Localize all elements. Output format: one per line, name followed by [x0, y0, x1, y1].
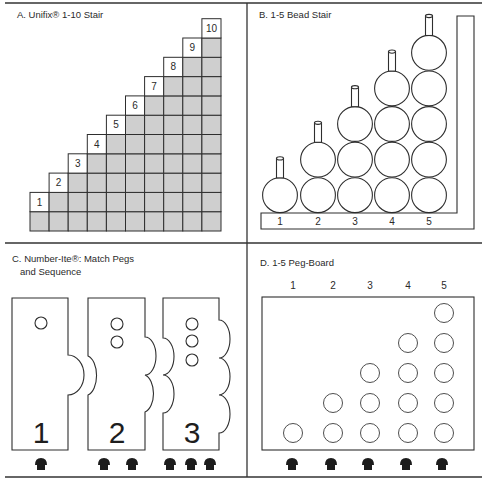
- stair-cube: [202, 212, 221, 231]
- stair-cube: [145, 173, 164, 192]
- peg-board-hole: [435, 334, 454, 353]
- peg-board-pegs: [286, 458, 448, 470]
- peg-icon: [126, 458, 138, 470]
- peg-icon: [35, 458, 47, 470]
- stair-cube: [126, 173, 145, 192]
- stair-cube: [145, 96, 164, 115]
- panel-d-peg-board: D. 1-5 Peg-Board 12345: [260, 257, 474, 470]
- panel-c-number-ite: C. Number-Ite®: Match Pegs and Sequence …: [12, 253, 230, 470]
- stair-cube: [202, 96, 221, 115]
- bead: [375, 107, 410, 142]
- card-hole: [186, 318, 198, 330]
- stair-cube: [183, 96, 202, 115]
- stair-cube: [126, 115, 145, 134]
- bead-column-labels: 12345: [277, 216, 432, 227]
- stair-column-label: 10: [206, 23, 218, 34]
- stair-column-label: 4: [94, 139, 100, 150]
- stair-cube: [183, 57, 202, 76]
- card-hole: [111, 318, 123, 330]
- stair-cube: [183, 77, 202, 96]
- stair-cube: [202, 192, 221, 211]
- peg-board-hole: [361, 394, 380, 413]
- panel-d-title: D. 1-5 Peg-Board: [260, 257, 334, 268]
- bead-rod-cap: [277, 157, 284, 160]
- stair-cube: [49, 212, 68, 231]
- peg-board-hole: [399, 364, 418, 383]
- stair-column-label: 7: [151, 81, 157, 92]
- bead-column-label: 1: [277, 216, 283, 227]
- peg-board-hole: [435, 394, 454, 413]
- stair-cube: [202, 77, 221, 96]
- bead: [301, 178, 336, 213]
- bead: [412, 35, 447, 70]
- peg-board-column-label: 5: [441, 280, 447, 291]
- bead: [263, 178, 298, 213]
- stair-cube: [126, 135, 145, 154]
- stair-cube: [87, 192, 106, 211]
- stair-cube: [164, 77, 183, 96]
- peg-board-hole: [399, 394, 418, 413]
- stair-cube: [202, 57, 221, 76]
- stair-cube: [164, 115, 183, 134]
- stair-cube: [164, 212, 183, 231]
- bead-column-label: 3: [352, 216, 358, 227]
- peg-board-hole: [399, 334, 418, 353]
- stair-cube: [126, 154, 145, 173]
- bead-rod: [426, 16, 433, 36]
- stair-cube: [145, 135, 164, 154]
- stair-column-label: 5: [113, 119, 119, 130]
- stair-cube: [164, 135, 183, 154]
- bead: [338, 107, 373, 142]
- bead: [338, 178, 373, 213]
- stair-cube: [106, 192, 125, 211]
- bead-column-label: 2: [315, 216, 321, 227]
- peg-board-hole: [435, 364, 454, 383]
- peg-icon: [164, 458, 176, 470]
- stair-cube: [183, 212, 202, 231]
- bead-rod: [352, 87, 359, 107]
- stair-cube: [202, 154, 221, 173]
- bead: [412, 178, 447, 213]
- peg-board-column-label: 2: [330, 280, 336, 291]
- stair-cube: [183, 173, 202, 192]
- stair-cube: [49, 192, 68, 211]
- stair-cube: [145, 192, 164, 211]
- bead-rod-cap: [352, 86, 359, 89]
- bead: [375, 71, 410, 106]
- bead-column-label: 5: [426, 216, 432, 227]
- bead-rod: [315, 123, 322, 143]
- stair-cube: [164, 154, 183, 173]
- manipulatives-figure: A. Unifix® 1-10 Stair 12345678910 B. 1-5…: [0, 0, 491, 492]
- bead: [375, 178, 410, 213]
- bead: [301, 142, 336, 177]
- bead: [375, 142, 410, 177]
- bead-rod-cap: [426, 14, 433, 17]
- stair-column-label: 6: [132, 100, 138, 111]
- bead-rod: [277, 158, 284, 178]
- peg-board-column-label: 4: [405, 280, 411, 291]
- peg-board-column-label: 1: [290, 280, 296, 291]
- peg-icon: [362, 458, 374, 470]
- panel-c-title-line2: and Sequence: [20, 266, 81, 277]
- stair-cube: [202, 38, 221, 57]
- unifix-stair: 12345678910: [30, 19, 221, 231]
- panel-a-unifix-stair: A. Unifix® 1-10 Stair 12345678910: [17, 9, 221, 231]
- peg-icon: [325, 458, 337, 470]
- bead: [338, 142, 373, 177]
- stair-cube: [68, 192, 87, 211]
- peg-board-column-label: 3: [367, 280, 373, 291]
- stair-cube: [126, 192, 145, 211]
- bead-columns: [263, 14, 447, 212]
- peg-board-hole: [399, 424, 418, 443]
- panel-b-title: B. 1-5 Bead Stair: [259, 9, 331, 20]
- peg-icon: [204, 458, 216, 470]
- stair-cube: [126, 212, 145, 231]
- peg-icon: [436, 458, 448, 470]
- stair-column-label: 1: [37, 197, 43, 208]
- stair-cube: [68, 173, 87, 192]
- card-pegs: [35, 458, 216, 470]
- card-hole: [35, 317, 47, 329]
- panel-b-bead-stair: B. 1-5 Bead Stair 12345: [259, 9, 474, 229]
- stair-cube: [30, 212, 49, 231]
- stair-cube: [106, 212, 125, 231]
